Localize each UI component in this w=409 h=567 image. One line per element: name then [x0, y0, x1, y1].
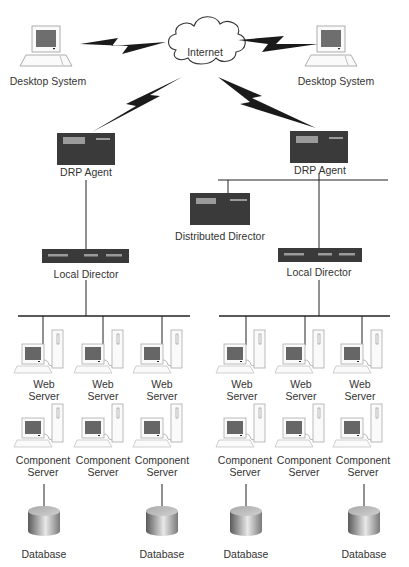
desktop-system-label: Desktop System — [6, 75, 90, 87]
database-icon — [28, 506, 60, 536]
component-server-icon — [333, 404, 382, 447]
web-server-icon — [275, 330, 324, 373]
drp-agent-icon — [57, 133, 115, 165]
local-director-label: Local Director — [279, 266, 359, 278]
component-server-label: ComponentServer — [70, 454, 136, 478]
web-server-icon — [333, 330, 382, 373]
local-director-label: Local Director — [46, 268, 126, 280]
desktop-system-icon — [20, 26, 72, 66]
local-director-icon — [42, 249, 129, 263]
distributed-director-label: Distributed Director — [168, 230, 272, 242]
component-server-icon — [216, 404, 265, 447]
distributed-director-icon — [190, 193, 250, 225]
web-server-icon — [216, 330, 265, 373]
web-server-label: WebServer — [271, 378, 331, 402]
database-label: Database — [216, 548, 276, 560]
component-server-icon — [133, 404, 182, 447]
component-server-icon — [74, 404, 123, 447]
desktop-system-label: Desktop System — [294, 75, 378, 87]
local-director-icon — [278, 248, 362, 262]
internet-label: Internet — [179, 46, 231, 58]
component-server-label: ComponentServer — [271, 454, 337, 478]
desktop-system-icon — [305, 26, 357, 66]
database-label: Database — [334, 548, 394, 560]
web-server-icon — [74, 330, 123, 373]
web-server-icon — [133, 330, 182, 373]
database-icon — [230, 506, 262, 536]
database-icon — [146, 506, 178, 536]
database-label: Database — [14, 548, 74, 560]
web-server-label: WebServer — [73, 378, 133, 402]
web-server-label: WebServer — [330, 378, 390, 402]
drp-agent-icon — [290, 131, 348, 163]
component-server-label: ComponentServer — [10, 454, 76, 478]
drp-agent-label: DRP Agent — [280, 164, 360, 176]
web-server-label: WebServer — [14, 378, 74, 402]
web-server-icon — [14, 330, 63, 373]
component-server-label: ComponentServer — [330, 454, 396, 478]
web-server-label: WebServer — [212, 378, 272, 402]
component-server-icon — [14, 404, 63, 447]
component-server-label: ComponentServer — [212, 454, 278, 478]
web-server-label: WebServer — [132, 378, 192, 402]
database-icon — [348, 506, 380, 536]
component-server-label: ComponentServer — [129, 454, 195, 478]
drp-agent-label: DRP Agent — [46, 166, 126, 178]
component-server-icon — [275, 404, 324, 447]
database-label: Database — [132, 548, 192, 560]
